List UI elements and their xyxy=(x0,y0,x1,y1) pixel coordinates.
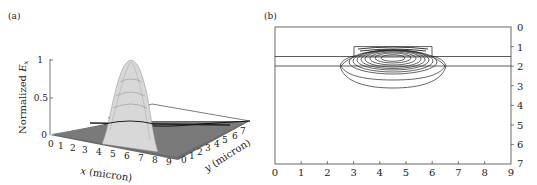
panel-a-surface-plot: (a) 1 0.5 0 Normalized Ex 012 345 678 9 … xyxy=(0,0,262,185)
svg-text:Normalized Ex: Normalized Ex xyxy=(17,61,30,134)
svg-text:1: 1 xyxy=(517,42,523,53)
svg-text:0: 0 xyxy=(181,155,187,165)
svg-text:4: 4 xyxy=(96,147,102,157)
svg-text:7: 7 xyxy=(138,153,144,163)
svg-text:0: 0 xyxy=(517,22,523,33)
svg-text:4: 4 xyxy=(517,100,523,111)
svg-text:5: 5 xyxy=(403,167,409,178)
svg-text:5: 5 xyxy=(110,149,116,159)
svg-text:4: 4 xyxy=(377,167,383,178)
svg-text:3: 3 xyxy=(350,167,356,178)
svg-text:3: 3 xyxy=(82,145,88,155)
svg-text:6: 6 xyxy=(517,139,523,150)
svg-text:9: 9 xyxy=(166,157,172,167)
svg-text:1: 1 xyxy=(37,55,43,65)
svg-text:0: 0 xyxy=(41,130,47,140)
svg-text:0: 0 xyxy=(272,167,278,178)
svg-text:4: 4 xyxy=(214,139,220,149)
svg-text:2: 2 xyxy=(197,147,203,157)
contour-plot: 012 345 678 9 012 345 67 xyxy=(262,0,537,185)
svg-text:0: 0 xyxy=(48,139,54,149)
svg-text:5: 5 xyxy=(517,120,523,131)
svg-text:7: 7 xyxy=(517,158,523,169)
svg-text:2: 2 xyxy=(70,143,76,153)
svg-text:7: 7 xyxy=(240,126,246,136)
svg-text:3: 3 xyxy=(517,81,523,92)
svg-text:8: 8 xyxy=(481,167,487,178)
svg-text:2: 2 xyxy=(324,167,330,178)
svg-text:0.5: 0.5 xyxy=(34,93,49,103)
svg-text:6: 6 xyxy=(429,167,435,178)
svg-text:3: 3 xyxy=(205,143,211,153)
svg-text:1: 1 xyxy=(58,141,64,151)
surface-plot: 1 0.5 0 Normalized Ex 012 345 678 9 012 … xyxy=(0,0,262,185)
svg-text:5: 5 xyxy=(222,135,228,145)
svg-text:1: 1 xyxy=(189,151,195,161)
svg-text:9: 9 xyxy=(508,167,514,178)
svg-text:2: 2 xyxy=(517,61,523,72)
svg-text:8: 8 xyxy=(152,155,158,165)
panel-b-contour-plot: (b) xyxy=(262,0,537,185)
svg-text:6: 6 xyxy=(232,131,238,141)
svg-text:7: 7 xyxy=(455,167,461,178)
svg-text:x (micron): x (micron) xyxy=(80,165,133,183)
svg-text:1: 1 xyxy=(298,167,304,178)
svg-text:6: 6 xyxy=(124,151,130,161)
